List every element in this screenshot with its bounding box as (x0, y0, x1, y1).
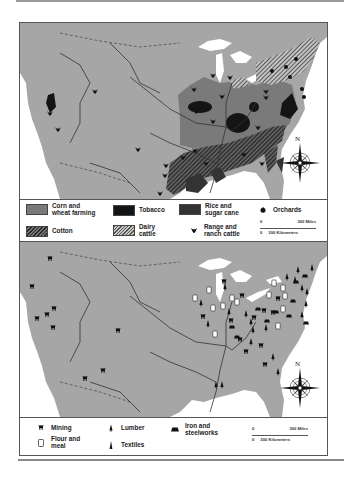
map-figure: N Corn andwheat farming Cotton Tobacco D… (19, 22, 328, 456)
legend-item-orchards: Orchards (258, 205, 301, 215)
apple-icon (258, 205, 268, 215)
industry-map: N (20, 242, 327, 418)
furnace-icon (170, 425, 180, 435)
rice-sugar-swatch (179, 204, 201, 215)
scale-bar: 0300 Miles 0300 Kilometers (252, 426, 308, 442)
svg-text:N: N (295, 360, 300, 368)
tree-icon (106, 423, 116, 433)
legend-item-rice-sugar: Rice andsugar cane (179, 203, 239, 216)
agriculture-map: N (20, 23, 327, 200)
agriculture-legend: Corn andwheat farming Cotton Tobacco Dai… (20, 200, 327, 242)
legend-item-flour-meal: Flour andmeal (36, 436, 80, 449)
cotton-swatch (26, 226, 48, 237)
top-rule (16, 0, 344, 2)
dairy-swatch (113, 225, 135, 236)
flour-sack-icon (36, 438, 46, 448)
mine-cart-icon (36, 423, 46, 433)
svg-text:N: N (295, 135, 300, 143)
legend-item-dairy: Dairycattle (113, 224, 156, 237)
compass-rose-icon: N (280, 135, 320, 183)
spindle-icon (106, 440, 116, 450)
tobacco-swatch (113, 205, 135, 216)
scale-bar: 0300 Miles 0300 Kilometers (260, 219, 316, 235)
legend-item-mining: Mining (36, 423, 72, 433)
industry-legend: Mining Flour andmeal Lumber Textiles Iro… (20, 418, 327, 455)
legend-item-cotton: Cotton (26, 226, 73, 237)
legend-item-corn-wheat: Corn andwheat farming (26, 203, 95, 216)
legend-item-tobacco: Tobacco (113, 205, 165, 216)
compass-rose-icon: N (280, 360, 320, 408)
corn-wheat-swatch (26, 204, 48, 215)
cattle-head-icon (189, 226, 199, 236)
legend-item-iron-steel: Iron andsteelworks (170, 423, 218, 436)
bottom-rule (18, 459, 344, 461)
legend-item-range-cattle: Range andranch cattle (189, 224, 240, 237)
legend-item-textiles: Textiles (106, 440, 144, 450)
legend-item-lumber: Lumber (106, 423, 144, 433)
